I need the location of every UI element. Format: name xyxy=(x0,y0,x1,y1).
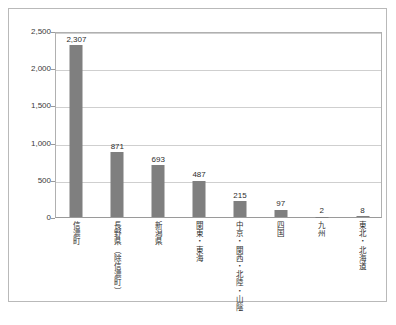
bar-slot: 8 xyxy=(342,33,383,217)
x-axis-category-text: 関東・東海 xyxy=(194,221,202,303)
bar-value-label: 487 xyxy=(192,171,205,179)
bar-value-label: 2,307 xyxy=(66,36,86,44)
bar[interactable] xyxy=(111,152,124,217)
x-axis-category-label: 四国 xyxy=(259,221,300,303)
y-axis-tick-mark xyxy=(51,218,55,219)
bar-value-label: 2 xyxy=(319,207,323,215)
bar[interactable] xyxy=(356,216,369,217)
x-axis-category-label: 長野県（除信濃町） xyxy=(96,221,137,303)
y-axis-tick-label: 1,000 xyxy=(11,140,51,148)
bar-slot: 97 xyxy=(260,33,301,217)
x-axis-category-label: 九州 xyxy=(300,221,341,303)
x-axis-category-label: 信濃町 xyxy=(55,221,96,303)
x-axis-category-text: 中京・関西・北陸・山陰 xyxy=(235,221,243,303)
x-axis: 信濃町長野県（除信濃町）新潟県関東・東海中京・関西・北陸・山陰四国九州東北・北海… xyxy=(55,221,382,303)
bar[interactable] xyxy=(70,45,83,217)
y-axis: 05001,0001,5002,0002,500 xyxy=(9,32,51,218)
bar[interactable] xyxy=(152,165,165,217)
bar[interactable] xyxy=(274,210,287,217)
bar-slot: 2 xyxy=(301,33,342,217)
bar-slot: 871 xyxy=(97,33,138,217)
x-axis-category-text: 信濃町 xyxy=(71,221,79,303)
bar-slot: 2,307 xyxy=(56,33,97,217)
x-axis-category-text: 長野県（除信濃町） xyxy=(112,221,120,303)
bar-slot: 693 xyxy=(138,33,179,217)
bar-slot: 215 xyxy=(220,33,261,217)
plot-area: 2,3078716934872159728 xyxy=(55,32,382,218)
bar-value-label: 97 xyxy=(276,200,285,208)
bar-value-label: 215 xyxy=(233,192,246,200)
y-axis-tick-label: 0 xyxy=(11,214,51,222)
x-axis-category-text: 四国 xyxy=(276,221,284,303)
x-axis-category-label: 関東・東海 xyxy=(178,221,219,303)
x-axis-category-text: 新潟県 xyxy=(153,221,161,303)
y-axis-tick-label: 2,000 xyxy=(11,65,51,73)
bar[interactable] xyxy=(193,181,206,217)
bar-value-label: 693 xyxy=(152,156,165,164)
y-axis-tick-label: 2,500 xyxy=(11,28,51,36)
y-axis-tick-label: 500 xyxy=(11,177,51,185)
bar-value-label: 8 xyxy=(360,207,364,215)
bar-value-label: 871 xyxy=(111,143,124,151)
x-axis-category-text: 九州 xyxy=(317,221,325,303)
x-axis-category-label: 中京・関西・北陸・山陰 xyxy=(219,221,260,303)
chart-frame: 05001,0001,5002,0002,500 2,3078716934872… xyxy=(8,8,387,302)
bar-slot: 487 xyxy=(179,33,220,217)
y-axis-tick-label: 1,500 xyxy=(11,102,51,110)
bar[interactable] xyxy=(233,201,246,217)
x-axis-category-text: 東北・北海道 xyxy=(358,221,366,303)
x-axis-category-label: 東北・北海道 xyxy=(341,221,382,303)
x-axis-category-label: 新潟県 xyxy=(137,221,178,303)
